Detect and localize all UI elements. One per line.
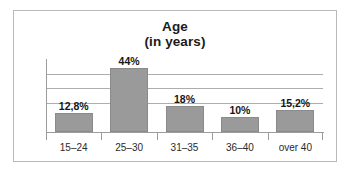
- x-axis-ticks: [46, 133, 323, 140]
- bar-value-label: 18%: [157, 93, 212, 105]
- bar-value-label: 12,8%: [46, 100, 101, 112]
- bar-value-label: 44%: [101, 55, 156, 67]
- bar-value-label: 15,2%: [268, 97, 323, 109]
- bar-value-label: 10%: [212, 104, 267, 116]
- bar[interactable]: [166, 106, 204, 132]
- bar[interactable]: [221, 117, 259, 132]
- bar[interactable]: [55, 113, 93, 132]
- axis-tick: [268, 133, 269, 140]
- axis-tick: [101, 133, 102, 140]
- category-label: 25–30: [101, 142, 156, 153]
- bars-layer: 12,8% 44% 18% 10% 15,2%: [46, 59, 323, 132]
- axis-tick: [46, 133, 47, 140]
- bar-group-2: 18%: [157, 59, 212, 132]
- category-label: 36–40: [212, 142, 267, 153]
- chart-title: Age (in years): [14, 19, 336, 49]
- chart-container: Age (in years) 12,8% 44% 18% 10% 15,2%: [13, 10, 337, 162]
- chart-title-subtitle: (in years): [14, 34, 336, 49]
- bar-group-0: 12,8%: [46, 59, 101, 132]
- bar[interactable]: [110, 68, 148, 132]
- axis-tick: [212, 133, 213, 140]
- axis-tick: [322, 133, 323, 140]
- category-label: 31–35: [157, 142, 212, 153]
- x-axis-category-labels: 15–24 25–30 31–35 36–40 over 40: [46, 142, 323, 153]
- chart-title-main: Age: [162, 19, 188, 34]
- bar-group-4: 15,2%: [268, 59, 323, 132]
- category-label: 15–24: [46, 142, 101, 153]
- bar-group-1: 44%: [101, 59, 156, 132]
- category-label: over 40: [268, 142, 323, 153]
- bar-group-3: 10%: [212, 59, 267, 132]
- axis-tick: [157, 133, 158, 140]
- bar[interactable]: [276, 110, 314, 132]
